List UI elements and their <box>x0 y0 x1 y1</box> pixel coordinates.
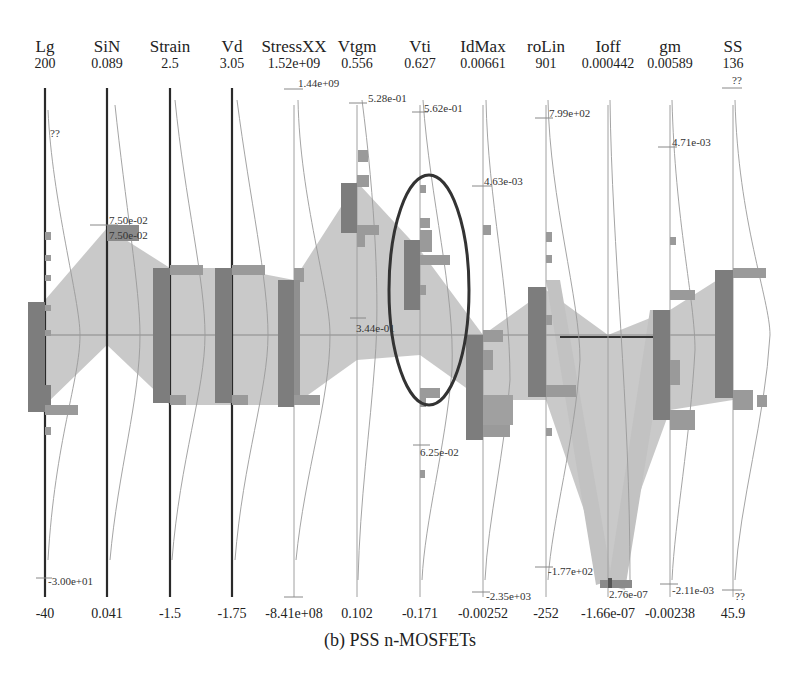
anno-rolin-high: 7.99e+02 <box>549 107 590 119</box>
axis-name-rolin: roLin <box>527 37 565 56</box>
axis-name-vtgm: Vtgm <box>338 37 377 56</box>
anno-gm-high: 4.71e-03 <box>672 136 711 148</box>
axis-max-ss: 136 <box>723 56 744 71</box>
anno-idmax-low: -2.35e+03 <box>486 590 531 602</box>
anno-stressxx-high: 1.44e+09 <box>298 77 340 89</box>
anno-vti-high: 5.62e-01 <box>424 102 463 114</box>
axis-min-strain: -1.5 <box>159 606 181 621</box>
axis-min-sin: 0.041 <box>91 606 123 621</box>
axis-min-ss: 45.9 <box>721 606 746 621</box>
parallel-coordinates-chart: Lg SiN Strain Vd StressXX Vtgm Vti IdMax… <box>0 0 800 685</box>
figure-caption: (b) PSS n-MOSFETs <box>0 630 800 651</box>
axis-min-rolin: -252 <box>533 606 559 621</box>
axis-name-ioff: Ioff <box>595 37 621 56</box>
axis-max-vti: 0.627 <box>404 56 436 71</box>
axis-name-ss: SS <box>724 37 743 56</box>
anno-gm-low: -2.11e-03 <box>672 584 715 596</box>
axis-min-vti: -0.171 <box>402 606 438 621</box>
axis-max-vd: 3.05 <box>220 56 245 71</box>
anno-sin-b: 7.50e-02 <box>109 229 148 241</box>
axis-min-values: -40 0.041 -1.5 -1.75 -8.41e+08 0.102 -0.… <box>36 606 746 621</box>
axis-name-sin: SiN <box>94 37 120 56</box>
axis-min-ioff: -1.66e-07 <box>581 606 635 621</box>
axis-max-rolin: 901 <box>536 56 557 71</box>
anno-vti-low: 6.25e-02 <box>420 446 459 458</box>
anno-ss-low: ?? <box>735 590 745 602</box>
anno-sin-a: 7.50e-02 <box>109 214 148 226</box>
anno-rolin-low: -1.77e+02 <box>548 565 593 577</box>
anno-lg-unknown: ?? <box>50 127 60 139</box>
axis-name-idmax: IdMax <box>460 37 506 56</box>
axis-max-sin: 0.089 <box>91 56 123 71</box>
axis-max-strain: 2.5 <box>161 56 179 71</box>
axis-max-lg: 200 <box>35 56 56 71</box>
axis-min-gm: -0.00238 <box>645 606 695 621</box>
anno-ss-high: ?? <box>732 74 742 86</box>
axis-max-ioff: 0.000442 <box>582 56 635 71</box>
axis-names: Lg SiN Strain Vd StressXX Vtgm Vti IdMax… <box>36 37 743 56</box>
axis-max-idmax: 0.00661 <box>460 56 506 71</box>
axis-max-vtgm: 0.556 <box>341 56 373 71</box>
axis-min-vtgm: 0.102 <box>341 606 373 621</box>
axis-name-gm: gm <box>659 37 681 56</box>
axis-name-lg: Lg <box>36 37 55 56</box>
axis-max-gm: 0.00589 <box>647 56 693 71</box>
axis-min-vd: -1.75 <box>217 606 246 621</box>
axis-max-values: 200 0.089 2.5 3.05 1.52e+09 0.556 0.627 … <box>35 56 744 71</box>
axis-max-stressxx: 1.52e+09 <box>268 56 321 71</box>
anno-ioff-low: 2.76e-07 <box>609 588 648 600</box>
anno-vtgm-mid: 3.44e-01 <box>356 322 395 334</box>
axis-name-strain: Strain <box>150 37 191 56</box>
anno-lg-low: -3.00e+01 <box>48 575 93 587</box>
axis-name-stressxx: StressXX <box>261 37 326 56</box>
anno-vtgm-high: 5.28e-01 <box>368 92 407 104</box>
axis-min-lg: -40 <box>36 606 55 621</box>
axis-min-stressxx: -8.41e+08 <box>265 606 322 621</box>
axis-name-vd: Vd <box>222 37 243 56</box>
axis-min-idmax: -0.00252 <box>458 606 508 621</box>
axis-name-vti: Vti <box>409 37 431 56</box>
anno-idmax-high: 4.63e-03 <box>484 175 523 187</box>
